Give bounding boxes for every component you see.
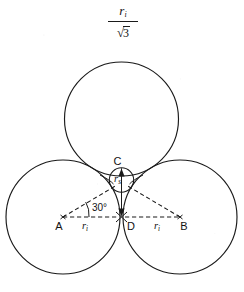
formula-denominator: √3 [116, 26, 130, 40]
label-point-b: B [180, 220, 187, 232]
label-radius-right-subscript: i [158, 225, 160, 233]
label-point-a: A [55, 220, 63, 232]
figure-root: ri √3 [0, 0, 244, 292]
segment-ac [63, 185, 117, 217]
label-radius-right: ri [154, 220, 160, 233]
angle-arc-30 [86, 202, 89, 217]
formula-fraction-bar [108, 21, 138, 22]
arrow-head-up [118, 169, 124, 177]
label-small-radius-subscript: s [118, 177, 121, 185]
label-angle-30: 30° [92, 202, 107, 213]
label-radius-left: ri [82, 220, 88, 233]
point-b-marker [178, 215, 183, 219]
top-circle [65, 62, 179, 176]
segment-bc [126, 185, 180, 217]
label-point-d: D [127, 220, 135, 232]
formula-expression: ri √3 [96, 4, 150, 40]
tangent-stroke-right [130, 175, 144, 184]
square-root-group: √3 [116, 26, 130, 40]
tangent-stroke-left [100, 175, 114, 184]
label-point-c: C [114, 155, 122, 167]
formula-numerator: ri [96, 4, 150, 20]
formula-radicand: 3 [123, 26, 130, 40]
geometry-diagram: C rs 30° A ri D ri B [0, 0, 244, 292]
label-radius-left-subscript: i [86, 225, 88, 233]
formula-numerator-subscript: i [124, 10, 126, 19]
